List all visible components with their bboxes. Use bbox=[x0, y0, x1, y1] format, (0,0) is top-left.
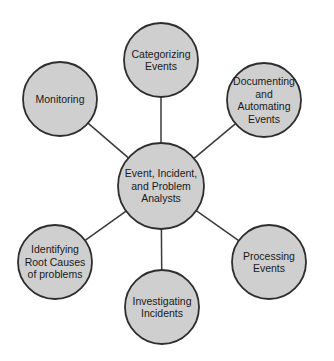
connector-documenting-and-automating-events bbox=[194, 124, 236, 159]
connector-identifying-root-causes bbox=[85, 211, 126, 240]
nodes: CategorizingEventsDocumentingandAutomati… bbox=[18, 23, 306, 344]
documenting-and-automating-events-label-line: and bbox=[255, 88, 273, 100]
node-categorizing-events: CategorizingEvents bbox=[124, 23, 198, 97]
node-monitoring: Monitoring bbox=[23, 62, 97, 136]
categorizing-events-label-line: Events bbox=[145, 60, 177, 72]
documenting-and-automating-events-label-line: Events bbox=[248, 113, 280, 125]
hub-node: Event, Incident,and ProblemAnalysts bbox=[118, 143, 204, 229]
identifying-root-causes-label-line: of problems bbox=[28, 268, 83, 280]
connector-monitoring bbox=[88, 123, 128, 158]
hub-label-line: and Problem bbox=[131, 180, 191, 192]
categorizing-events-label-line: Categorizing bbox=[132, 48, 191, 60]
investigating-incidents-label-line: Investigating bbox=[133, 295, 192, 307]
identifying-root-causes-label-line: Identifying bbox=[31, 243, 79, 255]
node-processing-events: ProcessingEvents bbox=[232, 225, 306, 299]
identifying-root-causes-label-line: Root Causes bbox=[25, 256, 86, 268]
documenting-and-automating-events-label-line: Documenting bbox=[233, 75, 295, 87]
documenting-and-automating-events-label-line: Automating bbox=[237, 100, 290, 112]
monitoring-label-line: Monitoring bbox=[35, 93, 84, 105]
hub-label-line: Analysts bbox=[141, 192, 181, 204]
node-investigating-incidents: InvestigatingIncidents bbox=[125, 270, 199, 344]
hub-label-line: Event, Incident, bbox=[125, 167, 197, 179]
investigating-incidents-label-line: Incidents bbox=[141, 307, 183, 319]
processing-events-label-line: Events bbox=[253, 262, 285, 274]
connector-processing-events bbox=[196, 211, 239, 241]
processing-events-label-line: Processing bbox=[243, 250, 295, 262]
node-documenting-and-automating-events: DocumentingandAutomatingEvents bbox=[227, 63, 301, 137]
node-identifying-root-causes: IdentifyingRoot Causesof problems bbox=[18, 225, 92, 299]
hub-and-spoke-diagram: CategorizingEventsDocumentingandAutomati… bbox=[0, 0, 334, 361]
